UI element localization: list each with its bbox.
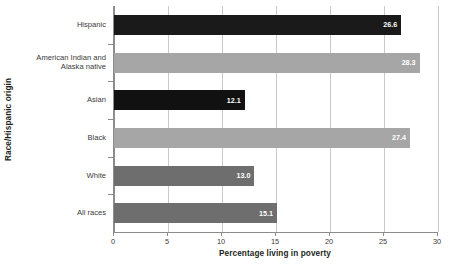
plot-area: 26.628.312.127.413.015.1 bbox=[113, 6, 438, 233]
x-axis-tick bbox=[221, 232, 222, 236]
x-axis-tick-label: 25 bbox=[379, 237, 387, 246]
bar: 27.4 bbox=[114, 128, 410, 148]
category-label: Asian bbox=[12, 95, 106, 105]
bar-value-label: 28.3 bbox=[402, 58, 420, 67]
x-axis-tick bbox=[383, 232, 384, 236]
bar-row: 12.1 bbox=[114, 90, 438, 110]
category-label: Black bbox=[12, 133, 106, 143]
x-axis-tick-label: 20 bbox=[325, 237, 333, 246]
bar: 28.3 bbox=[114, 53, 420, 73]
x-axis-tick-label: 5 bbox=[165, 237, 169, 246]
x-axis-tick-label: 0 bbox=[111, 237, 115, 246]
bar-row: 26.6 bbox=[114, 15, 438, 35]
category-label: White bbox=[12, 171, 106, 181]
category-label: All races bbox=[12, 208, 106, 218]
bar: 15.1 bbox=[114, 203, 277, 223]
x-axis-tick-label: 10 bbox=[217, 237, 225, 246]
bar-value-label: 12.1 bbox=[227, 96, 245, 105]
bar: 13.0 bbox=[114, 166, 254, 186]
y-axis-title-label: Race/Hispanic origin bbox=[4, 78, 13, 161]
bar-chart: Race/Hispanic origin HispanicAmerican In… bbox=[0, 0, 457, 264]
x-axis-tick-label: 15 bbox=[271, 237, 279, 246]
bar-value-label: 27.4 bbox=[392, 133, 410, 142]
y-axis-tick bbox=[108, 81, 113, 82]
category-label: American Indian andAlaska native bbox=[12, 53, 106, 72]
bar: 12.1 bbox=[114, 90, 245, 110]
y-axis-tick bbox=[108, 157, 113, 158]
gridline-30 bbox=[438, 6, 439, 232]
y-axis-tick bbox=[108, 119, 113, 120]
x-axis-tick-label: 30 bbox=[433, 237, 441, 246]
x-axis: 051015202530 bbox=[113, 232, 439, 250]
bar-row: 15.1 bbox=[114, 203, 438, 223]
x-axis-title: Percentage living in poverty bbox=[113, 249, 437, 258]
x-axis-tick bbox=[437, 232, 438, 236]
y-axis-tick bbox=[108, 44, 113, 45]
bar-value-label: 15.1 bbox=[259, 209, 277, 218]
y-axis-tick bbox=[108, 194, 113, 195]
bar-value-label: 13.0 bbox=[236, 171, 254, 180]
bar-row: 27.4 bbox=[114, 128, 438, 148]
x-axis-tick bbox=[167, 232, 168, 236]
bar-row: 28.3 bbox=[114, 53, 438, 73]
category-label: Hispanic bbox=[12, 20, 106, 30]
bar-value-label: 26.6 bbox=[383, 20, 401, 29]
bars-layer: 26.628.312.127.413.015.1 bbox=[114, 6, 438, 232]
bar: 26.6 bbox=[114, 15, 401, 35]
x-axis-tick bbox=[275, 232, 276, 236]
bar-row: 13.0 bbox=[114, 166, 438, 186]
x-axis-tick bbox=[329, 232, 330, 236]
category-axis: HispanicAmerican Indian andAlaska native… bbox=[14, 6, 110, 232]
x-axis-tick bbox=[113, 232, 114, 236]
